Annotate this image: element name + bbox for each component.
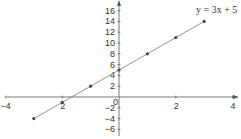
x-tick-label: 2 xyxy=(174,101,179,111)
y-tick-label: −2 xyxy=(105,103,115,113)
y-tick-label: 2 xyxy=(110,81,115,91)
data-point-marker xyxy=(32,117,35,120)
x-axis-arrow-icon xyxy=(233,95,239,99)
y-tick-label: 4 xyxy=(110,70,115,80)
y-tick-label: −6 xyxy=(105,124,115,134)
y-tick-label: 16 xyxy=(105,6,115,16)
y-axis-arrow-icon xyxy=(117,0,121,6)
x-tick-label: 4 xyxy=(231,101,236,111)
data-point-marker xyxy=(89,85,92,88)
data-point-marker xyxy=(117,68,120,71)
y-tick-label: 6 xyxy=(110,60,115,70)
data-point-marker xyxy=(61,101,64,104)
x-tick-label: −4 xyxy=(0,101,10,111)
data-point-marker xyxy=(203,20,206,23)
y-tick-label: −4 xyxy=(105,114,115,124)
equation-label: y = 3x + 5 xyxy=(196,4,237,15)
data-point-marker xyxy=(146,52,149,55)
linear-function-chart: −42024−6−4−2246810121416 y = 3x + 5 xyxy=(0,0,241,139)
y-tick-label: 12 xyxy=(105,27,115,37)
y-tick-label: 10 xyxy=(105,38,115,48)
y-tick-label: 8 xyxy=(110,49,115,59)
data-point-marker xyxy=(174,36,177,39)
y-tick-label: 14 xyxy=(105,16,115,26)
